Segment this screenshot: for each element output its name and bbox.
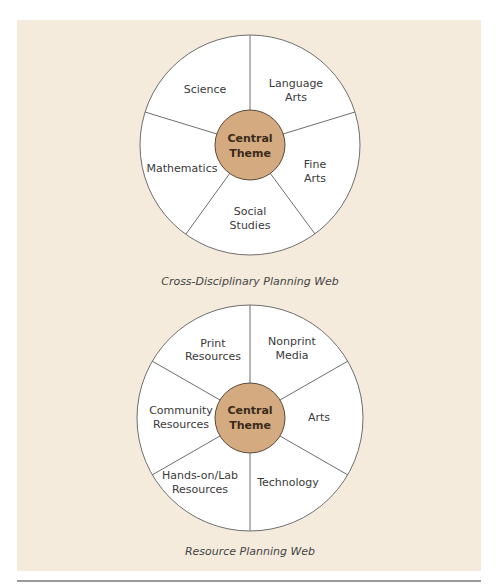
resource-web: Central Theme Print Resources Nonprint M… bbox=[137, 305, 363, 558]
segment-fine-arts-l2: Arts bbox=[304, 172, 326, 185]
segment-print-resources-l1: Print bbox=[200, 337, 226, 350]
segment-fine-arts-l1: Fine bbox=[304, 158, 327, 171]
segment-arts: Arts bbox=[308, 411, 330, 424]
segment-community-resources-l1: Community bbox=[149, 404, 213, 417]
caption-resource: Resource Planning Web bbox=[185, 545, 315, 558]
web2-center-line2: Theme bbox=[229, 419, 271, 432]
web1-center-line1: Central bbox=[227, 132, 272, 145]
segment-print-resources-l2: Resources bbox=[185, 350, 241, 363]
segment-community-resources-l2: Resources bbox=[153, 418, 209, 431]
segment-technology: Technology bbox=[256, 476, 319, 489]
web2-center-line1: Central bbox=[227, 404, 272, 417]
web1-center-line2: Theme bbox=[229, 147, 271, 160]
segment-science: Science bbox=[184, 83, 227, 96]
segment-hands-on-lab-l2: Resources bbox=[172, 483, 228, 496]
segment-mathematics: Mathematics bbox=[147, 162, 218, 175]
segment-social-studies-l1: Social bbox=[234, 205, 267, 218]
segment-language-arts-l2: Arts bbox=[285, 91, 307, 104]
segment-language-arts-l1: Language bbox=[269, 77, 324, 90]
caption-cross-disciplinary: Cross-Disciplinary Planning Web bbox=[161, 275, 339, 288]
segment-nonprint-media-l1: Nonprint bbox=[268, 335, 316, 348]
cross-disciplinary-web: Central Theme Science Language Arts Fine… bbox=[140, 35, 360, 288]
segment-nonprint-media-l2: Media bbox=[275, 349, 308, 362]
segment-social-studies-l2: Studies bbox=[230, 219, 271, 232]
segment-hands-on-lab-l1: Hands-on/Lab bbox=[162, 469, 238, 482]
planning-webs-diagram: Central Theme Science Language Arts Fine… bbox=[0, 0, 498, 587]
